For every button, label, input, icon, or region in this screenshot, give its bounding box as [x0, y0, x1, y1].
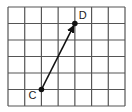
point-c — [39, 87, 45, 93]
label-d: D — [79, 9, 87, 21]
grid-diagram: C D — [0, 0, 132, 112]
grid-lines — [8, 7, 125, 106]
label-c: C — [28, 89, 36, 101]
point-d — [72, 21, 78, 27]
